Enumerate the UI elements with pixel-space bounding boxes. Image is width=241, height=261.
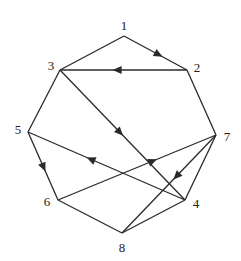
node-label-6: 6 — [44, 195, 51, 208]
edge-4-8 — [122, 200, 185, 233]
directed-graph — [0, 0, 241, 261]
edge-6-7 — [58, 135, 216, 200]
edge-4-5 — [28, 132, 185, 200]
node-label-1: 1 — [121, 19, 128, 32]
edge-1-3 — [60, 36, 124, 70]
edge-3-5 — [28, 70, 60, 132]
edge-6-8 — [58, 200, 122, 233]
node-label-4: 4 — [193, 197, 200, 210]
node-label-7: 7 — [224, 130, 231, 143]
edge-2-7 — [187, 70, 216, 135]
node-label-3: 3 — [48, 59, 55, 72]
arrowheads-layer — [38, 49, 182, 179]
edge-7-4 — [185, 135, 216, 200]
node-label-5: 5 — [15, 123, 22, 136]
node-label-8: 8 — [119, 241, 126, 254]
arrowhead-icon — [113, 66, 122, 74]
node-label-2: 2 — [194, 61, 201, 74]
